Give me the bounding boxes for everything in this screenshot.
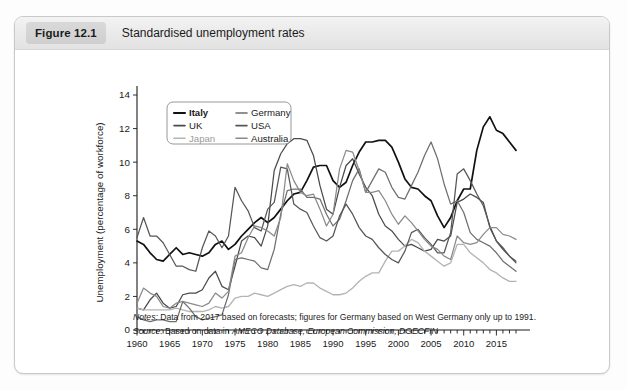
svg-text:1980: 1980 — [257, 338, 278, 349]
svg-text:1965: 1965 — [159, 338, 180, 349]
svg-text:Unemployment (percentage of wo: Unemployment (percentage of workforce) — [94, 122, 105, 302]
source-prefix: Based on data in — [165, 326, 232, 336]
figure-title: Standardised unemployment rates — [122, 26, 305, 40]
svg-text:6: 6 — [125, 224, 131, 235]
svg-text:1985: 1985 — [290, 338, 311, 349]
figure-header: Figure 12.1 Standardised unemployment ra… — [15, 17, 609, 50]
notes-text: Data from 2017 based on forecasts; figur… — [160, 312, 536, 322]
series-line-australia — [137, 150, 516, 308]
series-line-usa — [137, 167, 516, 271]
legend-label-uk: UK — [189, 120, 203, 131]
svg-text:1995: 1995 — [355, 338, 376, 349]
svg-text:2000: 2000 — [388, 338, 409, 349]
legend-label-australia: Australia — [251, 133, 289, 144]
series-line-germany — [137, 142, 516, 322]
svg-text:10: 10 — [119, 157, 130, 168]
svg-text:2: 2 — [125, 291, 130, 302]
svg-text:0: 0 — [125, 324, 131, 335]
svg-text:1990: 1990 — [322, 338, 343, 349]
source-line: Source: Based on data in AMECO Database,… — [133, 326, 438, 336]
svg-text:1975: 1975 — [224, 338, 245, 349]
svg-text:2005: 2005 — [420, 338, 441, 349]
notes-line: Notes: Data from 2017 based on forecasts… — [133, 312, 536, 322]
source-citation: AMECO Database, European Commission, DGE… — [232, 326, 438, 336]
legend-label-usa: USA — [251, 120, 271, 131]
series-line-japan — [137, 239, 516, 311]
source-label: Source: — [133, 326, 163, 336]
legend-label-italy: Italy — [189, 107, 209, 118]
svg-text:2010: 2010 — [453, 338, 474, 349]
svg-text:8: 8 — [125, 190, 131, 201]
svg-text:1960: 1960 — [126, 338, 147, 349]
legend-label-germany: Germany — [251, 107, 291, 118]
figure-card: Figure 12.1 Standardised unemployment ra… — [14, 16, 610, 374]
svg-text:12: 12 — [119, 123, 130, 134]
svg-text:14: 14 — [119, 89, 130, 100]
figure-number-badge: Figure 12.1 — [26, 22, 106, 44]
svg-text:2015: 2015 — [486, 338, 507, 349]
svg-text:4: 4 — [125, 257, 131, 268]
notes-label: Notes: — [133, 312, 158, 322]
svg-text:1970: 1970 — [192, 338, 213, 349]
legend-label-japan: Japan — [189, 133, 215, 144]
page-root: Figure 12.1 Standardised unemployment ra… — [0, 0, 627, 390]
